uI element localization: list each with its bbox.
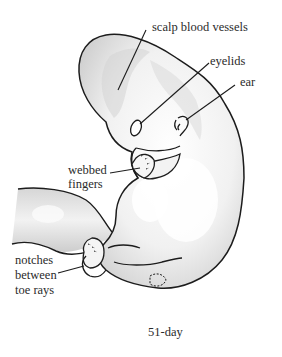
label-notches-between-toe-rays: notches between toe rays [15,253,57,298]
label-eyelids: eyelids [210,54,245,68]
foot [83,238,104,268]
label-notches-line1: notches [15,253,57,268]
label-notches-line2: between [15,268,57,283]
leader-toes [58,266,84,273]
label-notches-line3: toe rays [15,283,57,298]
label-webbed-line2: fingers [68,177,107,191]
label-scalp-blood-vessels: scalp blood vessels [152,20,248,34]
label-ear: ear [240,75,255,89]
label-webbed-fingers: webbed fingers [68,163,107,191]
figure-caption: 51-day [148,325,183,340]
label-webbed-line1: webbed [68,163,107,177]
